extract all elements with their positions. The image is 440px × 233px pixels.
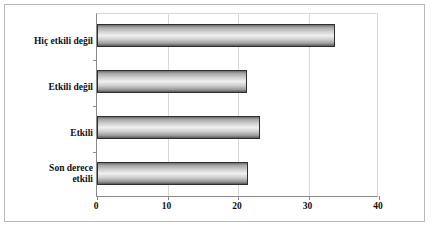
y-axis-category-labels: Hiç etkili değil Etkili değil Etkili Son…: [5, 13, 93, 197]
bar-hic-etkili-degil[interactable]: [97, 24, 335, 47]
category-label-2: Etkili: [5, 128, 93, 139]
bar-son-derece-etkili[interactable]: [97, 162, 248, 185]
category-label-1: Etkili değil: [5, 82, 93, 93]
category-label-3-line1: Son derece: [49, 163, 93, 173]
plot-area: [96, 13, 378, 197]
x-tick-40: [379, 196, 380, 200]
x-tick-20: [238, 196, 239, 200]
x-tick-label-20: 20: [232, 201, 242, 211]
category-label-3: Son derece etkili: [5, 163, 93, 185]
x-tick-0: [97, 196, 98, 200]
bar-etkili-degil[interactable]: [97, 70, 247, 93]
category-label-2-text: Etkili: [70, 128, 93, 138]
x-axis-tick-labels: 0 10 20 30 40: [96, 201, 379, 215]
x-tick-label-0: 0: [94, 201, 99, 211]
x-tick-label-10: 10: [162, 201, 172, 211]
x-tick-label-30: 30: [303, 201, 313, 211]
chart-frame: Hiç etkili değil Etkili değil Etkili Son…: [4, 4, 425, 222]
x-tick-label-40: 40: [373, 201, 383, 211]
category-label-3-line2: etkili: [72, 174, 93, 184]
category-label-0: Hiç etkili değil: [5, 36, 93, 47]
y-tick-2: [93, 152, 97, 153]
bar-etkili[interactable]: [97, 116, 260, 139]
x-tick-10: [168, 196, 169, 200]
category-label-0-text: Hiç etkili değil: [34, 36, 93, 46]
y-tick-1: [93, 106, 97, 107]
y-tick-0: [93, 60, 97, 61]
x-tick-30: [309, 196, 310, 200]
category-label-1-text: Etkili değil: [48, 82, 93, 92]
